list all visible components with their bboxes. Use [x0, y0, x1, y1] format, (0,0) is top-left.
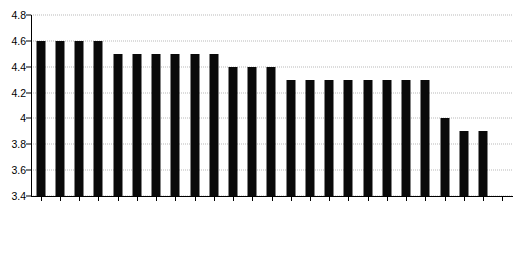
x-axis-tick-mark: [272, 196, 273, 201]
bar-slot: [243, 15, 262, 196]
bar[interactable]: [382, 80, 391, 196]
x-axis-tick-mark: [368, 196, 369, 201]
y-axis-tick-label: 4.8: [0, 10, 26, 21]
bar[interactable]: [75, 41, 84, 196]
x-axis-tick-mark: [118, 196, 119, 201]
y-axis-tick-label: 3.6: [0, 165, 26, 176]
bar[interactable]: [479, 131, 488, 196]
bar[interactable]: [36, 41, 45, 196]
x-axis-tick-mark: [425, 196, 426, 201]
bar[interactable]: [248, 67, 257, 196]
bar[interactable]: [421, 80, 430, 196]
bar-slot: [435, 15, 454, 196]
x-axis-tick-mark: [291, 196, 292, 201]
x-axis-tick-mark: [464, 196, 465, 201]
x-axis-tick-mark: [137, 196, 138, 201]
bar-slot: [339, 15, 358, 196]
x-axis-tick-mark: [252, 196, 253, 201]
x-axis-tick-mark: [502, 196, 503, 201]
bar-slot: [204, 15, 223, 196]
bar[interactable]: [402, 80, 411, 196]
bar[interactable]: [325, 80, 334, 196]
x-axis-tick-mark: [310, 196, 311, 201]
bar-slot: [223, 15, 242, 196]
bar[interactable]: [171, 54, 180, 196]
bar-slot: [358, 15, 377, 196]
bar-slot: [166, 15, 185, 196]
bar-slot: [89, 15, 108, 196]
x-axis-tick-mark: [79, 196, 80, 201]
x-axis-tick-mark: [41, 196, 42, 201]
y-axis-tick-label: 3.8: [0, 139, 26, 150]
x-axis-tick-mark: [387, 196, 388, 201]
bar[interactable]: [190, 54, 199, 196]
x-axis-tick-mark: [483, 196, 484, 201]
bar-slot: [377, 15, 396, 196]
x-axis-tick-mark: [406, 196, 407, 201]
bar-slot: [262, 15, 281, 196]
bar-slot: [300, 15, 319, 196]
bar[interactable]: [229, 67, 238, 196]
x-axis-tick-mark: [195, 196, 196, 201]
bar-slot: [108, 15, 127, 196]
x-axis-tick-mark: [233, 196, 234, 201]
bar-slot: [320, 15, 339, 196]
bar-slot: [69, 15, 88, 196]
bar[interactable]: [305, 80, 314, 196]
bar[interactable]: [267, 67, 276, 196]
x-axis-tick-mark: [156, 196, 157, 201]
x-axis-tick-mark: [175, 196, 176, 201]
x-axis-tick-mark: [329, 196, 330, 201]
bar[interactable]: [55, 41, 64, 196]
bar-chart: 4.84.64.44.243.83.63.4 BelgiumGreeceNige…: [0, 0, 518, 276]
bar-slot: [127, 15, 146, 196]
bar-slot: [146, 15, 165, 196]
bar-slot: [185, 15, 204, 196]
bar-slot: [397, 15, 416, 196]
bar-slot: [281, 15, 300, 196]
bar-slot: [416, 15, 435, 196]
y-axis-tick-label: 4.2: [0, 87, 26, 98]
y-axis-tick-label: 4.4: [0, 61, 26, 72]
bar[interactable]: [94, 41, 103, 196]
bar[interactable]: [209, 54, 218, 196]
bar[interactable]: [459, 131, 468, 196]
bar[interactable]: [152, 54, 161, 196]
y-axis-tick-label: 3.4: [0, 191, 26, 202]
bar[interactable]: [132, 54, 141, 196]
bar[interactable]: [286, 80, 295, 196]
bar-slot: [50, 15, 69, 196]
y-axis-tick-label: 4.6: [0, 36, 26, 47]
x-axis-tick-mark: [445, 196, 446, 201]
bars-layer: [31, 15, 512, 196]
y-axis-tick-label: 4: [0, 113, 26, 124]
x-axis-tick-mark: [98, 196, 99, 201]
bar[interactable]: [440, 118, 449, 196]
bar-slot: [31, 15, 50, 196]
x-axis-tick-mark: [60, 196, 61, 201]
bar[interactable]: [344, 80, 353, 196]
bar-slot: [454, 15, 473, 196]
bar[interactable]: [363, 80, 372, 196]
bar-slot: [474, 15, 493, 196]
bar[interactable]: [113, 54, 122, 196]
x-axis-tick-mark: [214, 196, 215, 201]
x-axis-tick-mark: [348, 196, 349, 201]
